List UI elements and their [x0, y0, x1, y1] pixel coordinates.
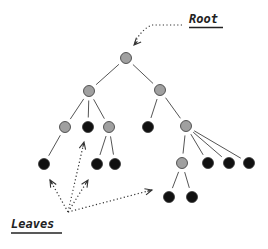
- internal-node: [181, 121, 192, 132]
- leaf-node: [164, 192, 175, 203]
- tree-edge: [185, 172, 190, 188]
- tree-edge: [100, 136, 106, 155]
- leaf-node: [83, 122, 94, 133]
- leaf-node: [92, 159, 103, 170]
- tree-diagram: Root Leaves: [0, 0, 268, 249]
- tree-edge: [183, 135, 185, 153]
- annotation-arrows: [50, 25, 182, 212]
- internal-node: [84, 86, 95, 97]
- leaf-node: [143, 122, 154, 133]
- dotted-arrow-line: [68, 190, 152, 212]
- root-label: Root: [189, 12, 218, 26]
- tree-edge: [172, 172, 178, 188]
- tree-edge: [166, 98, 181, 119]
- leaf-node: [203, 158, 214, 169]
- tree-edge: [111, 136, 114, 154]
- dotted-arrow-line: [68, 142, 84, 212]
- leaf-node: [110, 159, 121, 170]
- leaf-node: [39, 159, 50, 170]
- tree-edge: [194, 131, 241, 158]
- internal-node: [104, 122, 115, 133]
- leaf-node: [244, 158, 255, 169]
- tree-edge: [151, 99, 157, 118]
- tree-edge: [70, 99, 83, 119]
- internal-node: [155, 85, 166, 96]
- arrowhead-icon: [82, 180, 88, 188]
- tree-nodes: [39, 53, 255, 203]
- tree-edge: [191, 134, 203, 155]
- dotted-arrow-line: [134, 25, 182, 45]
- tree-edge: [133, 65, 153, 84]
- tree-edge: [94, 99, 105, 118]
- internal-node: [177, 158, 188, 169]
- dotted-arrow-line: [50, 180, 68, 212]
- leaves-label: Leaves: [11, 217, 54, 231]
- leaf-node: [187, 192, 198, 203]
- dotted-arrow-line: [68, 180, 88, 212]
- internal-node: [60, 122, 71, 133]
- root-node: [121, 53, 132, 64]
- tree-edge: [96, 64, 119, 84]
- tree-edge: [49, 135, 61, 155]
- leaf-node: [224, 158, 235, 169]
